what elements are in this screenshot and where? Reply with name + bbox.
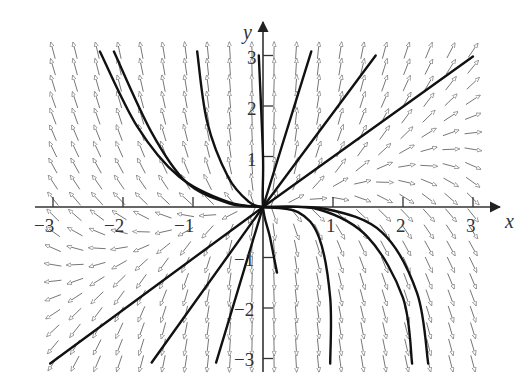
field-arrow: [449, 339, 454, 355]
field-arrow: [425, 241, 433, 256]
field-arrow: [89, 229, 105, 236]
field-arrow: [89, 248, 106, 249]
field-arrow: [157, 243, 170, 254]
field-arrow: [317, 273, 320, 290]
y-tick-label-3: 3: [247, 48, 257, 67]
field-arrow: [199, 215, 216, 216]
field-arrow: [73, 75, 78, 91]
field-arrow: [183, 290, 188, 306]
field-arrow: [207, 59, 209, 76]
field-arrow: [229, 124, 231, 141]
field-arrow: [360, 289, 364, 306]
field-arrow: [207, 339, 209, 356]
field-arrow: [49, 158, 57, 173]
field-arrow: [465, 132, 482, 134]
field-arrow: [359, 109, 365, 125]
field-arrow: [442, 149, 459, 150]
field-arrow: [274, 108, 275, 125]
field-arrow: [45, 245, 61, 252]
field-arrow: [161, 125, 166, 141]
field-arrow: [205, 257, 210, 273]
field-arrow: [251, 174, 253, 191]
field-arrow: [296, 58, 297, 75]
field-arrow: [95, 59, 99, 75]
field-arrow: [338, 273, 342, 290]
field-arrow: [359, 241, 366, 256]
field-arrow: [139, 339, 144, 355]
field-arrow: [469, 257, 476, 272]
field-arrow: [157, 193, 169, 205]
field-arrow: [289, 195, 304, 203]
field-arrow: [228, 256, 231, 273]
field-arrow: [184, 59, 187, 76]
field-arrow: [447, 257, 454, 272]
field-arrow: [316, 256, 320, 273]
field-arrow: [67, 278, 83, 284]
field-arrow: [229, 355, 230, 372]
field-arrow: [295, 256, 298, 273]
field-arrow: [403, 241, 411, 256]
y-axis-label: y: [243, 22, 252, 42]
field-arrow: [317, 75, 319, 92]
field-arrow: [116, 339, 122, 355]
field-arrow: [112, 261, 127, 269]
field-arrow: [313, 176, 324, 189]
field-arrow: [91, 292, 103, 304]
field-arrow: [383, 339, 387, 356]
field-arrow: [159, 175, 168, 189]
field-arrow: [470, 273, 477, 289]
field-arrow: [295, 124, 297, 141]
field-arrow: [161, 108, 165, 125]
field-arrow: [72, 92, 77, 108]
field-arrow: [71, 356, 79, 371]
field-arrow: [273, 223, 275, 240]
field-arrow: [222, 211, 237, 219]
field-arrow: [89, 262, 105, 267]
field-arrow: [404, 273, 410, 289]
field-arrow: [138, 158, 146, 173]
field-arrow: [332, 197, 349, 200]
field-arrow: [94, 108, 100, 124]
field-arrow: [206, 141, 210, 158]
field-arrow: [337, 240, 344, 256]
field-arrow: [118, 42, 122, 59]
field-arrow: [317, 92, 320, 109]
field-arrow: [49, 142, 56, 157]
field-arrow: [229, 289, 231, 306]
field-arrow: [184, 355, 187, 372]
field-arrow: [338, 125, 344, 141]
field-arrow: [139, 355, 143, 372]
field-arrow: [465, 162, 481, 169]
field-arrow: [445, 94, 457, 106]
field-arrow: [184, 322, 187, 339]
field-arrow: [206, 289, 209, 306]
field-arrow: [94, 125, 100, 141]
field-arrow: [137, 175, 147, 189]
field-arrow: [117, 108, 122, 124]
field-arrow: [92, 175, 102, 189]
field-arrow: [184, 108, 188, 125]
field-arrow: [115, 175, 125, 189]
field-arrow: [161, 306, 166, 322]
field-arrow: [47, 325, 59, 337]
field-arrow: [274, 75, 275, 92]
field-arrow: [94, 142, 101, 157]
field-arrow: [405, 339, 409, 356]
field-arrow: [382, 306, 386, 322]
field-arrow: [338, 257, 343, 273]
field-arrow: [94, 356, 101, 372]
y-tick-label-neg3: −3: [234, 350, 254, 369]
field-arrow: [185, 42, 187, 59]
field-arrow: [90, 210, 104, 220]
trajectory-curve: [263, 57, 473, 207]
field-arrow: [361, 42, 364, 59]
field-arrow: [424, 93, 434, 107]
field-arrow: [90, 277, 104, 286]
field-arrow: [339, 59, 342, 76]
field-arrow: [295, 273, 297, 290]
field-arrow: [68, 228, 83, 236]
field-arrow: [383, 322, 387, 339]
field-arrow: [360, 273, 365, 289]
field-arrow: [295, 289, 297, 306]
field-arrow: [317, 355, 319, 372]
